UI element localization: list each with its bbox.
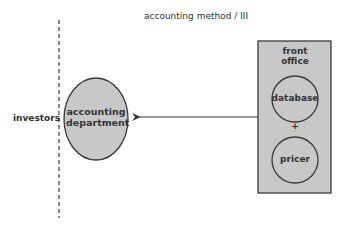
front-office-line1: front [268, 46, 322, 56]
pricer-label: pricer [270, 154, 320, 164]
front-office-line2: office [268, 56, 322, 66]
accounting-department-line2: department [66, 117, 126, 128]
plus-sign: + [290, 121, 300, 131]
database-label: database [270, 93, 320, 103]
accounting-department-label: accounting department [66, 106, 126, 128]
front-office-label: front office [268, 46, 322, 66]
investors-label: investors [13, 113, 60, 123]
diagram-title: accounting method / III [144, 11, 248, 21]
accounting-department-line1: accounting [66, 106, 126, 117]
